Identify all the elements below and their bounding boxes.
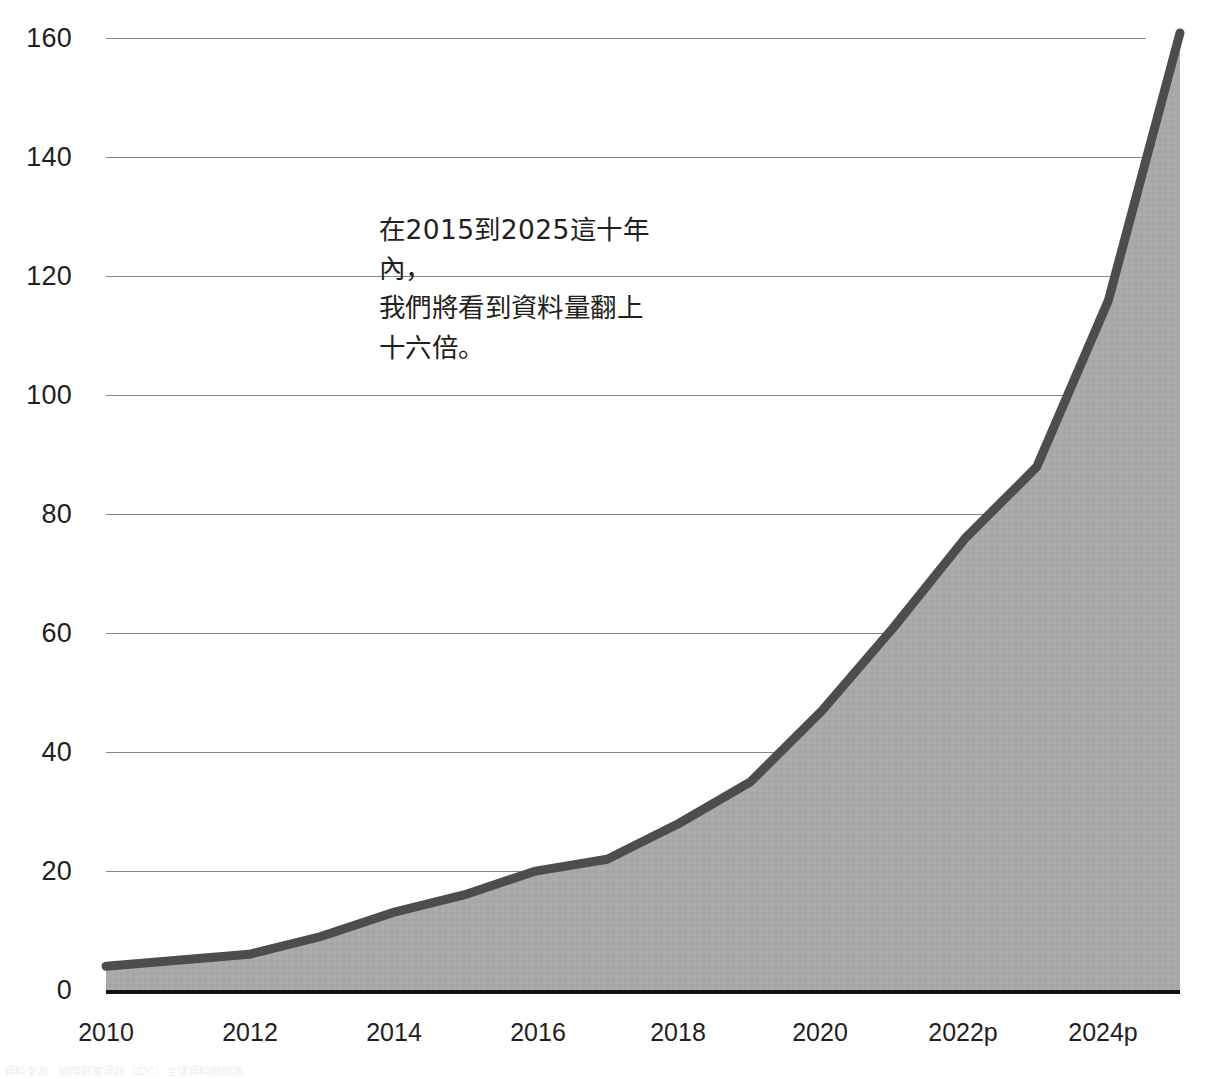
x-axis-tick-2012: 2012 (180, 1020, 320, 1045)
chart-annotation-text: 在2015到2025這十年內， 我們將看到資料量翻上 十六倍。 (379, 210, 699, 367)
x-axis-baseline (106, 990, 1180, 994)
x-axis-tick-2018: 2018 (608, 1020, 748, 1045)
area-fill (106, 33, 1180, 990)
x-axis-tick-2016: 2016 (468, 1020, 608, 1045)
chart-page: 160 140 120 100 80 60 40 20 0 2010 2012 … (0, 0, 1219, 1079)
x-axis-tick-2024p: 2024p (1033, 1020, 1173, 1045)
x-axis-tick-2022p: 2022p (893, 1020, 1033, 1045)
x-axis-tick-2020: 2020 (750, 1020, 890, 1045)
chart-footnote: 資料來源：國際數據資訊（IDC）全球資料圈預測 (4, 1066, 424, 1079)
x-axis-tick-2014: 2014 (324, 1020, 464, 1045)
area-chart-plot (0, 0, 1219, 1079)
x-axis-tick-2010: 2010 (36, 1020, 176, 1045)
